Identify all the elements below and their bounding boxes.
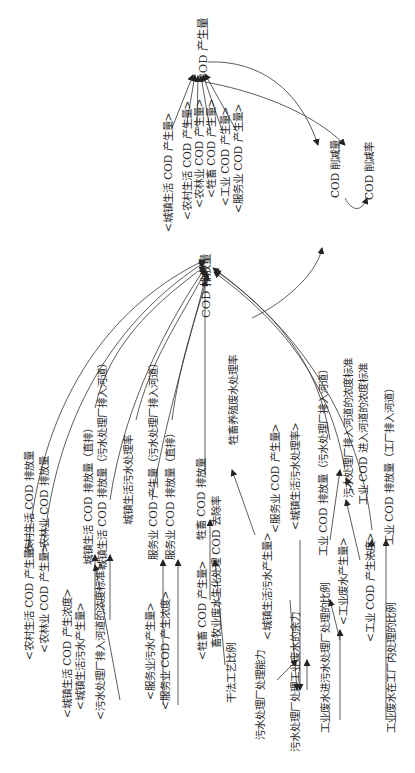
node-shadow-rural-life-cod-gen-2: <农村生活 COD 产生量> [24,541,35,660]
node-shadow-livestock-cod-gen-2: <牲畜 COD 产生量> [197,561,208,660]
node-shadow-agroforestry-cod-gen-2: <农林业 COD 产生量> [39,544,50,653]
node-shadow-industry-wastewater-gen: <工业废水产生量> [338,537,349,625]
node-shadow-service-cod-conc: <服务业 COD 产生浓度> [160,591,171,710]
node-shadow-service-cod-gen: <服务业 COD 产生量> [233,104,244,213]
node-industry-cod-plant: 工业 COD 排放量（污水处理厂排入河道） [318,364,329,556]
node-livestock-bio-cod-removal: 畜牧业废水生化处理 COD 去除率 [211,496,222,648]
node-urban-sewage-treatment-rate: 城镇生活污水处理率 [123,435,134,525]
node-livestock-wastewater-rate: 牲畜养殖废水处理率 [228,355,239,445]
node-plant-surplus: 污水处理厂处理工业废水的余力 [290,612,301,752]
node-industry-cod-river-std: 工业 COD 进入河道的浓度标准 [358,363,369,505]
node-urban-life-cod-plant: 城镇生活 COD 排放量（污水处理厂排入河道） [97,358,108,570]
node-industry-cod-factory: 工业 COD 排放量（工厂排入河道） [384,383,395,545]
node-cod-generation: COD 产生量 [198,18,209,82]
node-rural-life-cod-discharge: 农村生活 COD 排放量 [24,451,35,553]
node-dry-process-ratio: 干法工艺比例 [226,643,237,703]
node-service-cod-direct: 服务业 COD 排放量（直排） [165,428,176,560]
node-shadow-rural-life-cod-gen: <农村生活 COD 产生量> [182,101,193,220]
node-shadow-agroforestry-cod-gen: <农林业 COD 产生量> [194,99,205,208]
node-cod-discharge: COD 排放量 [201,254,212,318]
node-cod-reduction-amount: COD 削减量 [330,140,341,198]
node-cod-reduction-rate: COD 削减率 [364,142,375,200]
node-service-cod-gen: 服务业 COD 产生量（污水处理厂排入河道） [148,358,159,560]
node-agroforestry-cod-discharge: 农林业 COD 排放量 [39,456,50,548]
node-shadow-urban-life-cod-gen: <城镇生活 COD 产生量> [163,113,174,232]
node-plant-river-std: 污水处理厂排入河道的浓度标准 [343,358,354,498]
node-shadow-livestock-cod-gen: <牲畜 COD 产生量> [206,99,217,198]
node-shadow-urban-life-cod-conc: <城镇生活 COD 产生浓度> [62,589,73,718]
node-shadow-service-sewage-gen: <服务业污水产生量> [145,602,156,700]
node-shadow-industry-cod-conc: <工业 COD 产生浓度> [365,533,376,642]
node-shadow-urban-sewage-rate: <城镇生活污水处理率> [290,422,301,530]
node-shadow-service-cod-gen-2: <服务业 COD 产生量> [270,424,281,533]
stock-flow-diagram: COD 产生量 <城镇生活 COD 产生量> <农村生活 COD 产生量> <农… [0,0,415,773]
node-shadow-urban-sewage-gen-2: <城镇生活污水产生量> [262,532,273,640]
node-plant-capacity: 污水处理厂处理能力 [255,650,266,740]
node-shadow-industry-cod-gen: <工业 COD 产生量> [220,107,231,206]
node-livestock-cod-discharge: 牲畜 COD 排放量 [196,458,207,540]
node-industry-ww-to-plant-ratio: 工业废水进污水处理厂处理的比例 [320,583,331,733]
node-industry-ww-in-factory-ratio: 工业废水在工厂内处理的比例 [386,603,397,733]
node-shadow-plant-river-std: <污水处理厂排入河道的浓度标准> [95,562,106,720]
node-urban-life-cod-direct: 城镇生活 COD 排放量（直排） [83,423,94,565]
node-shadow-urban-sewage-gen: <城镇生活污水产生量> [75,602,86,710]
